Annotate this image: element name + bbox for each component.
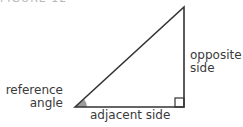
reference-angle-label-line2: angle [6, 97, 63, 110]
triangle-outline [75, 7, 184, 107]
opposite-side-label: opposite side [190, 49, 242, 75]
reference-angle-label: reference angle [6, 84, 63, 110]
opposite-side-label-line2: side [190, 62, 242, 75]
adjacent-side-label: adjacent side [90, 109, 170, 122]
right-angle-marker [175, 98, 184, 107]
